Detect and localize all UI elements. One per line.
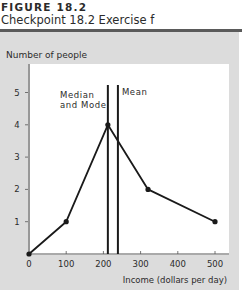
x-tick-label: 0	[26, 259, 31, 269]
mean-label: Mean	[122, 87, 148, 97]
x-tick-label: 200	[95, 259, 111, 269]
y-tick-label: 3	[14, 152, 19, 162]
data-point	[64, 219, 69, 224]
y-tick-label: 4	[14, 120, 19, 130]
data-point	[105, 122, 110, 127]
y-axis-label: Number of people	[6, 50, 88, 60]
x-axis-label: Income (dollars per day)	[123, 275, 227, 285]
line-chart: Number of people 010020030040050012345 M…	[0, 0, 242, 293]
x-tick-label: 500	[207, 259, 223, 269]
median-mode-label: Median	[60, 90, 95, 100]
y-tick-label: 5	[14, 88, 19, 98]
data-point	[26, 251, 31, 256]
y-tick-label: 1	[14, 217, 19, 227]
y-tick-label: 2	[14, 184, 19, 194]
x-tick-label: 400	[170, 259, 186, 269]
x-tick-label: 300	[132, 259, 148, 269]
median-mode-label: and Mode	[60, 100, 107, 110]
data-point	[212, 219, 217, 224]
data-point	[145, 187, 150, 192]
x-tick-label: 100	[58, 259, 74, 269]
